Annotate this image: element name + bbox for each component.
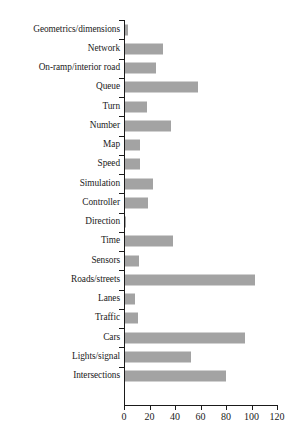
bar — [125, 313, 138, 324]
y-axis-tick — [119, 39, 124, 40]
category-label: Lanes — [98, 294, 120, 303]
x-axis-tick — [277, 405, 278, 410]
bar — [125, 24, 128, 35]
y-axis-tick — [119, 328, 124, 329]
category-label: Number — [90, 121, 120, 130]
category-label: Sensors — [91, 256, 120, 265]
y-axis-tick — [119, 155, 124, 156]
x-axis-tick — [252, 405, 253, 410]
chart-row: Time — [0, 232, 288, 251]
bar — [125, 294, 135, 305]
chart-row: Number — [0, 116, 288, 135]
category-label: Time — [101, 237, 120, 246]
chart-row: Controller — [0, 193, 288, 212]
category-label: Direction — [85, 217, 120, 226]
bar — [125, 43, 163, 54]
y-axis-tick — [119, 20, 124, 21]
bar-container — [125, 371, 226, 382]
x-tick-label: 40 — [170, 412, 180, 422]
bar-container — [125, 274, 255, 285]
bar-container — [125, 294, 135, 305]
x-tick-label: 60 — [196, 412, 206, 422]
x-axis-tick — [201, 405, 202, 410]
category-label: Controller — [82, 198, 120, 207]
bar — [125, 217, 126, 228]
y-axis-tick — [119, 213, 124, 214]
x-axis-tick-labels: 020406080100120 — [0, 412, 288, 428]
category-label: Lights/signal — [72, 352, 120, 361]
bar — [125, 63, 156, 74]
bar — [125, 371, 226, 382]
y-axis-tick — [119, 97, 124, 98]
bar — [125, 101, 147, 112]
bar-chart: Geometrics/dimensionsNetworkOn-ramp/inte… — [0, 0, 288, 448]
category-label: Simulation — [80, 179, 120, 188]
y-axis-tick — [119, 367, 124, 368]
bar-container — [125, 236, 173, 247]
category-label: Traffic — [95, 314, 120, 323]
bar — [125, 82, 198, 93]
x-axis-tick — [124, 405, 125, 410]
bar-container — [125, 178, 153, 189]
bar-container — [125, 351, 191, 362]
bar-container — [125, 217, 126, 228]
chart-row: Queue — [0, 78, 288, 97]
chart-row: Sensors — [0, 251, 288, 270]
y-axis-tick — [119, 59, 124, 60]
chart-row: Network — [0, 39, 288, 58]
category-label: Turn — [102, 102, 120, 111]
x-tick-label: 120 — [270, 412, 285, 422]
bar-container — [125, 24, 128, 35]
bar-container — [125, 82, 198, 93]
category-label: Cars — [103, 333, 120, 342]
bar-container — [125, 101, 147, 112]
x-tick-label: 100 — [244, 412, 259, 422]
category-label: Network — [88, 44, 120, 53]
chart-row: Roads/streets — [0, 270, 288, 289]
bar — [125, 178, 153, 189]
bar-container — [125, 63, 156, 74]
x-axis-tick — [226, 405, 227, 410]
y-axis-tick — [119, 232, 124, 233]
chart-row: Intersections — [0, 367, 288, 386]
y-axis-tick — [119, 270, 124, 271]
y-axis-tick — [119, 193, 124, 194]
x-axis-tick — [175, 405, 176, 410]
chart-row: Traffic — [0, 309, 288, 328]
bar — [125, 236, 173, 247]
bar-container — [125, 313, 138, 324]
chart-row: Turn — [0, 97, 288, 116]
bar — [125, 197, 148, 208]
x-tick-label: 80 — [221, 412, 231, 422]
category-label: Roads/streets — [71, 275, 120, 284]
bar — [125, 120, 171, 131]
category-label: Map — [103, 140, 120, 149]
bar-container — [125, 255, 139, 266]
chart-row: Geometrics/dimensions — [0, 20, 288, 39]
chart-row: Lanes — [0, 290, 288, 309]
x-axis-tick — [150, 405, 151, 410]
y-axis-tick — [119, 116, 124, 117]
bar — [125, 255, 139, 266]
y-axis-tick — [119, 309, 124, 310]
bar — [125, 351, 191, 362]
bar — [125, 332, 245, 343]
y-axis-tick — [119, 347, 124, 348]
bar-container — [125, 140, 140, 151]
bar — [125, 159, 140, 170]
chart-row: Direction — [0, 213, 288, 232]
bar-container — [125, 120, 171, 131]
category-label: Geometrics/dimensions — [33, 25, 120, 34]
y-axis-tick — [119, 78, 124, 79]
chart-row: On-ramp/interior road — [0, 59, 288, 78]
chart-row: Speed — [0, 155, 288, 174]
x-tick-label: 20 — [145, 412, 155, 422]
bar — [125, 140, 140, 151]
chart-row: Simulation — [0, 174, 288, 193]
chart-row: Cars — [0, 328, 288, 347]
category-label: On-ramp/interior road — [39, 63, 120, 72]
bar-container — [125, 197, 148, 208]
y-axis-tick — [119, 290, 124, 291]
category-label: Speed — [98, 160, 120, 169]
x-tick-label: 0 — [122, 412, 127, 422]
